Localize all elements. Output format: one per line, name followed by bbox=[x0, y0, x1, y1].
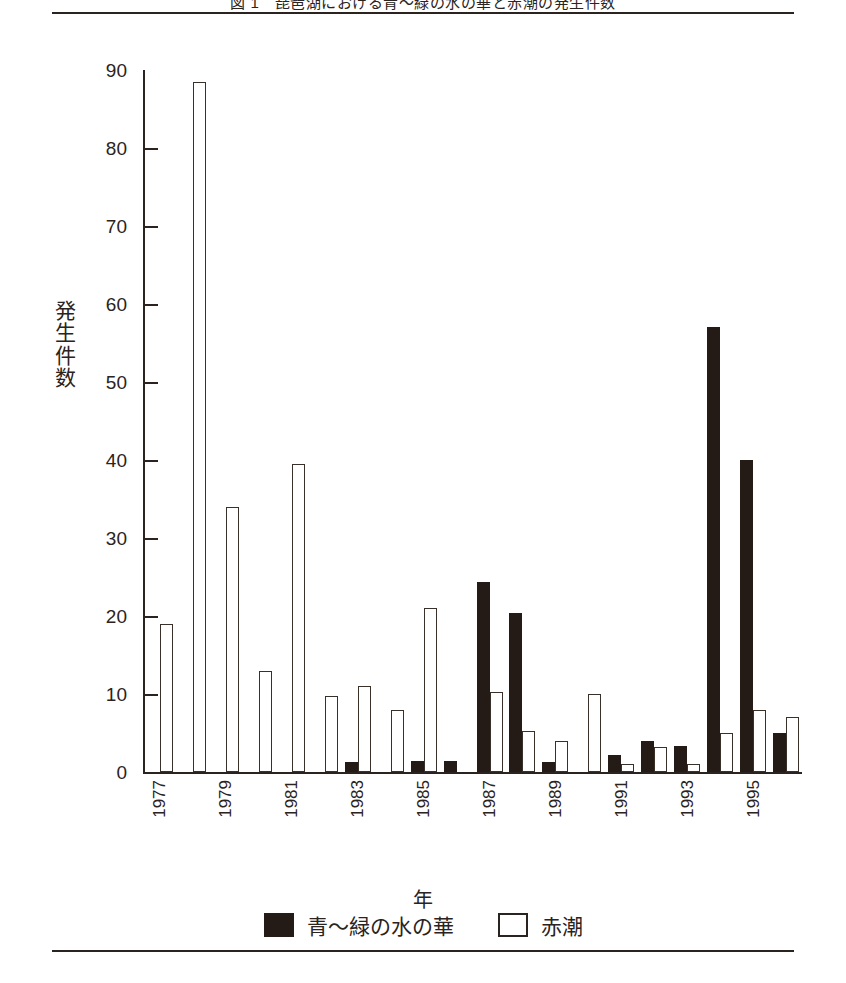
legend-label-bloom: 青〜緑の水の華 bbox=[307, 910, 454, 940]
bar-bloom bbox=[608, 755, 621, 772]
y-axis-tick-label: 60 bbox=[106, 295, 127, 314]
legend-item-redtide: 赤潮 bbox=[498, 910, 583, 940]
y-axis-tick-label: 10 bbox=[106, 685, 127, 704]
x-axis-tick-label: 1987 bbox=[481, 780, 498, 818]
bar-redtide bbox=[292, 464, 305, 772]
bar-redtide bbox=[325, 696, 338, 772]
x-axis-tick-label: 1995 bbox=[745, 780, 762, 818]
bar-group bbox=[143, 70, 176, 772]
plot-area: 0102030405060708090 bbox=[143, 70, 802, 772]
figure-title: 図 1 琵琶湖における青〜緑の水の華と赤潮の発生件数 bbox=[0, 0, 846, 12]
bar-redtide bbox=[588, 694, 601, 772]
x-axis-tick-label: 1983 bbox=[349, 780, 366, 818]
legend-swatch-filled-icon bbox=[264, 913, 294, 937]
bar-redtide bbox=[490, 692, 503, 772]
bar-group bbox=[341, 70, 374, 772]
bar-group bbox=[736, 70, 769, 772]
bar-group bbox=[505, 70, 538, 772]
bar-redtide bbox=[160, 624, 173, 772]
x-axis-tick-label: 1991 bbox=[613, 780, 630, 818]
bar-group bbox=[242, 70, 275, 772]
bar-bloom bbox=[411, 761, 424, 772]
y-axis-tick-label: 50 bbox=[106, 373, 127, 392]
bar-redtide bbox=[193, 82, 206, 772]
x-axis-tick-label: 1981 bbox=[283, 780, 300, 818]
bar-group bbox=[473, 70, 506, 772]
x-axis-tick-label: 1979 bbox=[217, 780, 234, 818]
x-axis-title: 年 bbox=[0, 884, 846, 913]
legend-swatch-outline-icon bbox=[498, 913, 528, 937]
bar-redtide bbox=[720, 733, 733, 772]
top-rule bbox=[52, 12, 794, 14]
bar-bloom bbox=[674, 746, 687, 772]
y-axis-title-char-3: 件 bbox=[52, 345, 78, 367]
bar-group bbox=[703, 70, 736, 772]
bar-group bbox=[176, 70, 209, 772]
bar-bloom bbox=[542, 762, 555, 772]
legend-item-bloom: 青〜緑の水の華 bbox=[264, 910, 454, 940]
bar-redtide bbox=[654, 747, 667, 772]
y-axis-tick-label: 30 bbox=[106, 529, 127, 548]
y-axis-tick-label: 90 bbox=[106, 61, 127, 80]
legend-label-redtide: 赤潮 bbox=[541, 910, 583, 940]
bar-group bbox=[604, 70, 637, 772]
bar-group bbox=[440, 70, 473, 772]
bar-series-container bbox=[143, 70, 802, 772]
bar-bloom bbox=[509, 613, 522, 772]
y-axis-tick-label: 40 bbox=[106, 451, 127, 470]
bar-redtide bbox=[424, 608, 437, 772]
bar-group bbox=[308, 70, 341, 772]
x-axis-tick-label: 1989 bbox=[547, 780, 564, 818]
x-axis-line bbox=[143, 772, 802, 774]
bar-group bbox=[769, 70, 802, 772]
bar-bloom bbox=[345, 762, 358, 772]
bar-redtide bbox=[555, 741, 568, 772]
legend: 青〜緑の水の華 赤潮 bbox=[0, 910, 846, 940]
y-axis-title: 発 生 件 数 bbox=[52, 300, 78, 389]
y-axis-title-char-4: 数 bbox=[52, 367, 78, 389]
bar-bloom bbox=[641, 741, 654, 772]
bar-group bbox=[407, 70, 440, 772]
bar-redtide bbox=[259, 671, 272, 772]
bar-redtide bbox=[226, 507, 239, 772]
bar-group bbox=[209, 70, 242, 772]
bar-redtide bbox=[786, 717, 799, 772]
bar-redtide bbox=[687, 764, 700, 772]
bar-group bbox=[374, 70, 407, 772]
bar-group bbox=[538, 70, 571, 772]
bar-group bbox=[670, 70, 703, 772]
y-axis-tick-label: 20 bbox=[106, 607, 127, 626]
y-axis-title-char-1: 発 bbox=[52, 300, 78, 322]
figure-bar-chart: 図 1 琵琶湖における青〜緑の水の華と赤潮の発生件数 発 生 件 数 01020… bbox=[0, 0, 846, 983]
x-axis-tick-label: 1977 bbox=[151, 780, 168, 818]
y-axis-tick-label: 70 bbox=[106, 217, 127, 236]
bottom-rule bbox=[52, 950, 794, 952]
bar-group bbox=[637, 70, 670, 772]
y-axis-tick-label: 0 bbox=[116, 763, 127, 782]
bar-bloom bbox=[773, 733, 786, 772]
bar-group bbox=[571, 70, 604, 772]
bar-redtide bbox=[753, 710, 766, 772]
x-axis-tick-label: 1993 bbox=[679, 780, 696, 818]
bar-bloom bbox=[444, 761, 457, 772]
bar-redtide bbox=[522, 731, 535, 772]
bar-redtide bbox=[358, 686, 371, 772]
bar-redtide bbox=[621, 764, 634, 772]
y-axis-title-char-2: 生 bbox=[52, 322, 78, 344]
x-axis-tick-labels: 1977197919811983198519871989199119931995 bbox=[143, 780, 802, 880]
x-axis-tick-label: 1985 bbox=[415, 780, 432, 818]
bar-bloom bbox=[707, 327, 720, 772]
bar-group bbox=[275, 70, 308, 772]
bar-bloom bbox=[740, 460, 753, 772]
bar-bloom bbox=[477, 582, 490, 772]
y-axis-tick-label: 80 bbox=[106, 139, 127, 158]
bar-redtide bbox=[391, 710, 404, 772]
